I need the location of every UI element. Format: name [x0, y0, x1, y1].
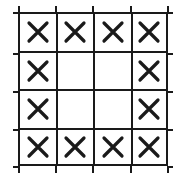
grid-line-overshoot [168, 53, 173, 55]
grid-line-overshoot [13, 129, 18, 131]
x-mark-icon [26, 59, 50, 83]
grid-line-overshoot [92, 166, 94, 173]
grid-line-overshoot [168, 91, 173, 93]
x-mark-icon [137, 20, 161, 44]
grid-line-overshoot [13, 53, 18, 55]
x-mark-icon [63, 20, 87, 44]
grid-line-overshoot [168, 12, 173, 14]
grid-cell-r0-c2 [93, 12, 131, 51]
grid-cell-r1-c0 [18, 51, 56, 90]
grid-cell-r3-c0 [18, 128, 56, 167]
x-mark-icon [26, 20, 50, 44]
grid-cell-r1-c3 [131, 51, 169, 90]
grid-line-overshoot [55, 6, 57, 12]
x-mark-icon [63, 135, 87, 159]
grid-cell-r1-c1 [56, 51, 94, 90]
grid-line-overshoot [92, 6, 94, 12]
grid-line-overshoot [18, 6, 20, 12]
grid-cell-r2-c0 [18, 89, 56, 128]
x-mark-icon [137, 97, 161, 121]
grid-cell-r1-c2 [93, 51, 131, 90]
grid-line-overshoot [55, 166, 57, 173]
grid-diagram [18, 12, 168, 166]
grid-cell-r2-c2 [93, 89, 131, 128]
grid-cell-r0-c3 [131, 12, 169, 51]
x-mark-icon [101, 135, 125, 159]
grid-line-overshoot [13, 12, 18, 14]
grid-cell-r3-c3 [131, 128, 169, 167]
grid-line-overshoot [13, 166, 18, 168]
grid-line-overshoot [130, 166, 132, 173]
grid-line-overshoot [18, 166, 20, 173]
x-mark-icon [137, 135, 161, 159]
grid-line-overshoot [13, 91, 18, 93]
x-mark-icon [101, 20, 125, 44]
x-mark-icon [26, 135, 50, 159]
x-mark-icon [26, 97, 50, 121]
grid-cell-r2-c3 [131, 89, 169, 128]
grid-cell-r2-c1 [56, 89, 94, 128]
grid-line-overshoot [130, 6, 132, 12]
grid-line-overshoot [168, 166, 173, 168]
grid-line-overshoot [168, 129, 173, 131]
grid-cell-r3-c1 [56, 128, 94, 167]
x-mark-icon [137, 59, 161, 83]
grid-cell-r0-c1 [56, 12, 94, 51]
grid-cell-r0-c0 [18, 12, 56, 51]
grid-cell-r3-c2 [93, 128, 131, 167]
